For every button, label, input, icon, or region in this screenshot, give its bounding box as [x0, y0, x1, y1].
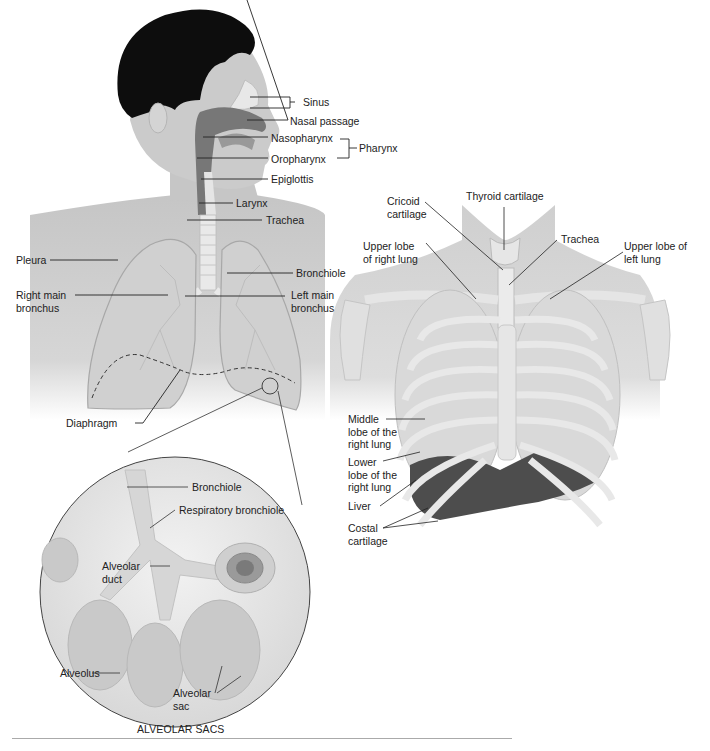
label-lower-lobe-right-lung: Lower lobe of the right lung — [348, 456, 397, 494]
label-alveolar-duct: Alveolar duct — [102, 560, 140, 585]
figure-caption: ALVEOLAR SACS — [137, 723, 224, 735]
label-pleura: Pleura — [16, 254, 46, 267]
label-costal-cartilage: Costal cartilage — [348, 522, 388, 547]
bottom-divider — [12, 738, 512, 739]
label-sinus: Sinus — [303, 96, 329, 109]
label-respiratory-bronchiole: Respiratory bronchiole — [179, 504, 284, 517]
label-alveolus: Alveolus — [60, 667, 100, 680]
label-upper-lobe-left-lung: Upper lobe of left lung — [624, 240, 687, 265]
label-alveoli-bronchiole: Bronchiole — [192, 481, 242, 494]
label-middle-lobe-right-lung: Middle lobe of the right lung — [348, 413, 397, 451]
label-thyroid-cartilage: Thyroid cartilage — [466, 190, 544, 203]
label-oropharynx: Oropharynx — [271, 153, 326, 166]
label-larynx: Larynx — [236, 197, 268, 210]
label-trachea: Trachea — [266, 214, 304, 227]
label-diaphragm: Diaphragm — [66, 417, 117, 430]
label-pharynx: Pharynx — [359, 142, 398, 155]
label-cricoid-cartilage: Cricoid cartilage — [387, 195, 427, 220]
label-nasopharynx: Nasopharynx — [271, 132, 333, 145]
label-left-main-bronchus: Left main bronchus — [291, 289, 334, 314]
label-epiglottis: Epiglottis — [271, 173, 314, 186]
label-nasal-passage: Nasal passage — [290, 115, 359, 128]
label-upper-lobe-right-lung: Upper lobe of right lung — [363, 240, 418, 265]
label-chest-trachea: Trachea — [561, 233, 599, 246]
label-alveolar-sac: Alveolar sac — [173, 687, 211, 712]
respiratory-system-illustration — [0, 0, 710, 751]
label-bronchiole: Bronchiole — [296, 267, 346, 280]
label-right-main-bronchus: Right main bronchus — [16, 289, 66, 314]
label-liver: Liver — [348, 500, 371, 513]
